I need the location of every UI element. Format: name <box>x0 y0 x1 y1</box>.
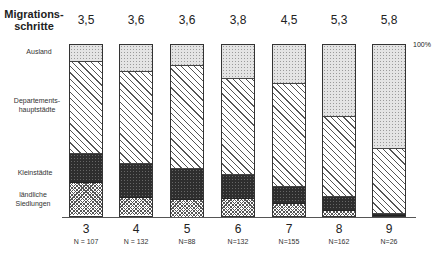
segment-kleinstaedte <box>171 169 203 200</box>
top-value: 5,3 <box>319 13 359 27</box>
segment-ausland <box>373 45 405 149</box>
x-label: 4 <box>116 222 156 236</box>
n-label: N=88 <box>162 238 212 245</box>
n-label: N=26 <box>364 238 414 245</box>
stacked-bar-7 <box>272 44 306 217</box>
segment-laendliche-siedlungen <box>222 199 254 216</box>
segment-ausland <box>171 45 203 66</box>
legend-laendliche-siedlungen: ländliche Siedlungen <box>8 190 58 208</box>
segment-departementshauptstaedte <box>373 149 405 214</box>
stacked-bar-5 <box>170 44 204 217</box>
segment-departementshauptstaedte <box>70 62 102 154</box>
legend-ausland: Ausland <box>14 47 64 56</box>
segment-ausland <box>273 45 305 84</box>
legend-rural-line2: Siedlungen <box>8 199 58 208</box>
segment-departementshauptstaedte <box>171 66 203 169</box>
segment-departementshauptstaedte <box>273 84 305 187</box>
row-label-line1: Migrations- <box>4 8 64 20</box>
stacked-bar-8 <box>322 44 356 217</box>
row-label-migrationsschritte: Migrations- schritte <box>4 8 64 32</box>
x-label: 6 <box>218 222 258 236</box>
x-label: 8 <box>319 222 359 236</box>
baseline-axis <box>62 217 416 218</box>
segment-laendliche-siedlungen <box>171 200 203 217</box>
stacked-bar-4 <box>119 44 153 217</box>
legend-departementshauptstaedte: Departements- hauptstädte <box>8 96 66 114</box>
segment-laendliche-siedlungen <box>323 211 355 216</box>
stacked-bar-6 <box>221 44 255 217</box>
top-value: 3,8 <box>218 13 258 27</box>
x-label: 9 <box>369 222 409 236</box>
top-value: 5,8 <box>369 13 409 27</box>
segment-departementshauptstaedte <box>323 117 355 197</box>
n-label: N=155 <box>264 238 314 245</box>
n-label: N=132 <box>213 238 263 245</box>
segment-kleinstaedte <box>70 154 102 183</box>
segment-ausland <box>120 45 152 72</box>
segment-ausland <box>70 45 102 62</box>
x-label: 7 <box>269 222 309 236</box>
legend-rural-line1: ländliche <box>8 190 58 199</box>
stacked-bar-3 <box>69 44 103 217</box>
percent-100-marker: 100% <box>413 41 431 48</box>
n-label: N=162 <box>314 238 364 245</box>
x-label: 5 <box>167 222 207 236</box>
segment-kleinstaedte <box>273 187 305 204</box>
top-value: 4,5 <box>269 13 309 27</box>
segment-kleinstaedte <box>120 164 152 198</box>
top-value: 3,6 <box>167 13 207 27</box>
legend-dept-line1: Departements- <box>8 96 66 105</box>
segment-departementshauptstaedte <box>120 72 152 164</box>
row-label-line2: schritte <box>4 20 64 32</box>
x-label: 3 <box>66 222 106 236</box>
segment-kleinstaedte <box>373 214 405 216</box>
segment-departementshauptstaedte <box>222 79 254 175</box>
segment-laendliche-siedlungen <box>70 183 102 215</box>
segment-laendliche-siedlungen <box>273 204 305 216</box>
segment-laendliche-siedlungen <box>120 198 152 215</box>
segment-kleinstaedte <box>222 175 254 199</box>
stacked-bar-9 <box>372 44 406 217</box>
segment-kleinstaedte <box>323 197 355 211</box>
n-label: N = 107 <box>61 238 111 245</box>
legend-kleinstaedte: Kleinstädte <box>10 168 60 177</box>
segment-ausland <box>222 45 254 79</box>
n-label: N = 132 <box>111 238 161 245</box>
top-value: 3,6 <box>116 13 156 27</box>
legend-dept-line2: hauptstädte <box>8 105 66 114</box>
segment-ausland <box>323 45 355 117</box>
top-value: 3,5 <box>66 13 106 27</box>
